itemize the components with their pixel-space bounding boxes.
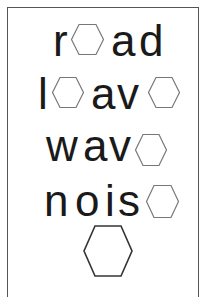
- letter-o: o: [75, 179, 99, 223]
- hexagon-icon: [52, 77, 84, 108]
- hexagon-icon: [135, 134, 167, 166]
- letter-a: a: [91, 72, 115, 116]
- letter-v: v: [109, 124, 131, 168]
- letter-a: a: [111, 19, 135, 63]
- letter-r: r: [53, 19, 68, 63]
- answer-hexagon[interactable]: [83, 225, 133, 277]
- letter-i: i: [105, 179, 115, 223]
- letter-w: w: [46, 124, 78, 168]
- blank-hexagon-slot[interactable]: [146, 185, 179, 218]
- letter-d: d: [139, 19, 163, 63]
- blank-hexagon-slot[interactable]: [52, 77, 84, 108]
- hexagon-icon: [148, 77, 180, 108]
- letter-s: s: [118, 179, 140, 223]
- letter-a: a: [83, 124, 107, 168]
- hexagon-icon: [146, 185, 179, 218]
- blank-hexagon-slot[interactable]: [71, 24, 104, 55]
- letter-v: v: [117, 72, 139, 116]
- hexagon-icon: [71, 24, 104, 55]
- hexagon-icon: [83, 225, 133, 277]
- letter-l: l: [38, 72, 48, 116]
- letter-n: n: [44, 179, 68, 223]
- blank-hexagon-slot[interactable]: [135, 134, 167, 166]
- blank-hexagon-slot[interactable]: [148, 77, 180, 108]
